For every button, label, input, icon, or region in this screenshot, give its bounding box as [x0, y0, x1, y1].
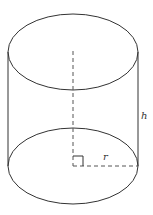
right-angle-marker: [73, 156, 83, 166]
cylinder-diagram: h r: [0, 0, 153, 215]
height-label: h: [141, 110, 147, 121]
radius-label: r: [103, 151, 109, 162]
